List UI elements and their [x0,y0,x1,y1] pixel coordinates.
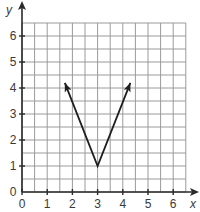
graph-svg: 01234560123456 x y [0,0,200,212]
x-tick-label: 2 [69,197,76,211]
y-tick-label: 1 [10,159,17,173]
x-tick-label: 4 [119,197,126,211]
y-tick-label: 4 [10,81,17,95]
y-tick-label: 5 [10,55,17,69]
x-tick-label: 1 [44,197,51,211]
y-tick-label: 3 [10,107,17,121]
x-tick-label: 3 [94,197,101,211]
y-tick-label: 0 [10,185,17,199]
y-axis-label: y [5,3,13,17]
grid-lines [22,23,186,192]
axes [18,1,199,196]
x-axis-label: x [189,197,197,211]
x-tick-label: 6 [170,197,177,211]
x-tick-label: 5 [145,197,152,211]
coordinate-plane: 01234560123456 x y [0,0,200,212]
x-tick-label: 0 [19,197,26,211]
y-tick-label: 6 [10,29,17,43]
y-tick-label: 2 [10,133,17,147]
